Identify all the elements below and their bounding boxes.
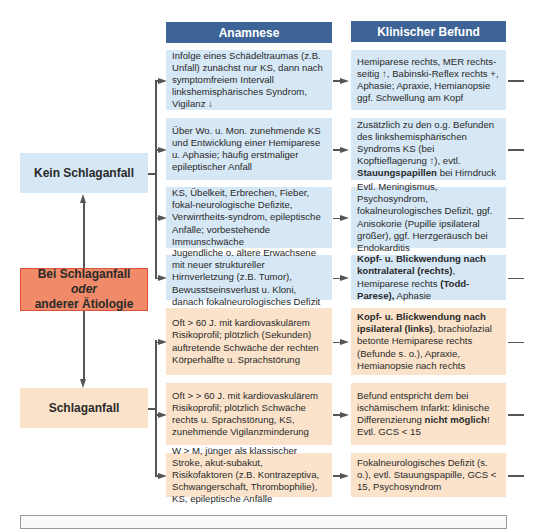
connector-out: [508, 278, 524, 280]
header-klinischer-befund: Klinischer Befund: [351, 21, 506, 42]
befund-text: Fokalneurologisches Defizit (s. o.), evt…: [357, 457, 500, 494]
arrow-right-icon: [340, 215, 349, 221]
befund-text: Befund entspricht dem bei ischämischem I…: [357, 390, 500, 439]
anamnese-box: Oft > 60 J. mit kardiovaskulärem Risikop…: [166, 308, 332, 375]
anamnese-box: Oft > > 60 J. mit kardiovaskulärem Risik…: [166, 383, 332, 445]
befund-text: Kopf- u. Blickwendung nach ipsilateral (…: [357, 311, 500, 372]
befund-box: Befund entspricht dem bei ischämischem I…: [351, 383, 506, 445]
anamnese-box: Infolge eines Schädeltraumas (z.B. Unfal…: [166, 50, 332, 110]
anamnese-box: KS, Übelkeit, Erbrechen, Fieber, fokal-n…: [166, 187, 332, 248]
header-anamnese: Anamnese: [166, 22, 332, 43]
connector-down: [83, 311, 85, 379]
arrow-right-icon: [340, 412, 349, 418]
befund-text: Hemiparese rechts, MER rechts-seitig ↑, …: [357, 56, 500, 105]
arrow-right-icon: [340, 473, 349, 479]
center-line-3: anderer Ätiologie: [35, 297, 134, 312]
befund-text: Kopf- u. Blickwendung nach kontralateral…: [357, 253, 500, 302]
befund-box: Fokalneurologisches Defizit (s. o.), evt…: [351, 453, 506, 497]
center-decision-box: Bei Schlaganfall oder anderer Ätiologie: [20, 268, 148, 311]
anamnese-text: Jugendliche o. ältere Erwachsene mit neu…: [172, 247, 326, 308]
befund-box: Kopf- u. Blickwendung nach kontralateral…: [351, 255, 506, 300]
arrow-right-icon: [340, 339, 349, 345]
befund-box: Hemiparese rechts, MER rechts-seitig ↑, …: [351, 50, 506, 110]
connector-out: [508, 342, 524, 344]
center-line-2: oder: [71, 282, 97, 297]
anamnese-box: Jugendliche o. ältere Erwachsene mit neu…: [166, 255, 332, 300]
connector-out: [508, 414, 524, 416]
befund-text: Zusätzlich zu den o.g. Befunden des link…: [357, 119, 500, 180]
connector-out: [508, 475, 524, 477]
anamnese-text: Oft > > 60 J. mit kardiovaskulärem Risik…: [172, 390, 326, 439]
anamnese-box: Über Wo. u. Mon. zunehmende KS und Entwi…: [166, 118, 332, 180]
kein-schlaganfall-box: Kein Schlaganfall: [20, 153, 148, 193]
connector-up: [83, 202, 85, 268]
connector-out: [508, 218, 524, 220]
arrow-right-icon: [340, 78, 349, 84]
befund-text: Evtl. Meningismus, Psychosyndrom, fokaln…: [357, 181, 500, 254]
arrow-up-icon: [80, 194, 86, 203]
anamnese-text: Infolge eines Schädeltraumas (z.B. Unfal…: [172, 50, 326, 111]
anamnese-text: W > M, jünger als klassischer Stroke, ak…: [172, 445, 326, 506]
befund-box: Evtl. Meningismus, Psychosyndrom, fokaln…: [351, 187, 506, 248]
bracket-schlaganfall: [155, 340, 157, 476]
anamnese-text: KS, Übelkeit, Erbrechen, Fieber, fokal-n…: [172, 187, 326, 248]
center-line-1: Bei Schlaganfall: [38, 267, 131, 282]
arrow-down-icon: [80, 379, 86, 388]
arrow-right-icon: [340, 275, 349, 281]
schlaganfall-box: Schlaganfall: [20, 388, 148, 428]
anamnese-box: W > M, jünger als klassischer Stroke, ak…: [166, 453, 332, 497]
bracket-kein: [155, 80, 157, 278]
footer-note-box: [20, 515, 507, 529]
connector: [155, 342, 157, 343]
anamnese-text: Über Wo. u. Mon. zunehmende KS und Entwi…: [172, 125, 326, 174]
connector-out: [508, 80, 524, 82]
connector-out: [508, 149, 524, 151]
befund-box: Kopf- u. Blickwendung nach ipsilateral (…: [351, 308, 506, 375]
arrow-right-icon: [340, 147, 349, 153]
anamnese-text: Oft > 60 J. mit kardiovaskulärem Risikop…: [172, 317, 326, 366]
befund-box: Zusätzlich zu den o.g. Befunden des link…: [351, 118, 506, 180]
